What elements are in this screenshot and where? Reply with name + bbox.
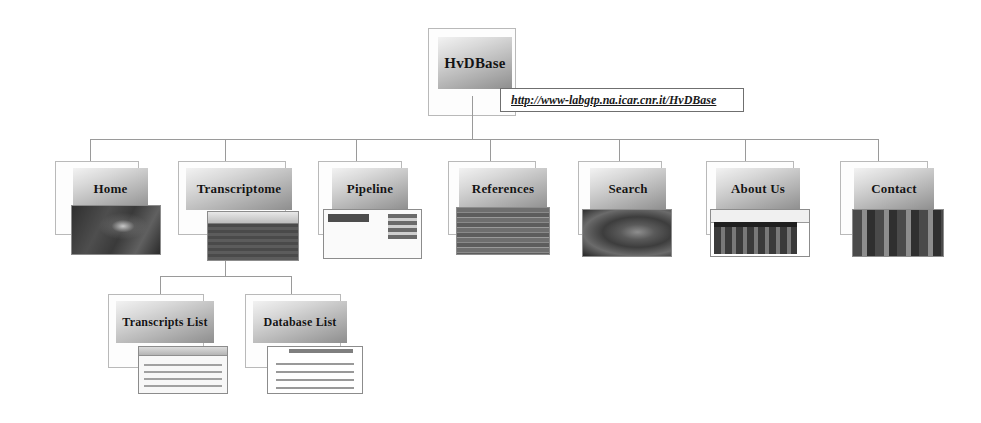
connector-drop-pipeline (356, 139, 357, 161)
node-label: Pipeline (347, 181, 393, 197)
people-photo-thumbnail (852, 209, 944, 257)
connector-drop-transcripts-list (160, 276, 161, 294)
node-transcripts-list[interactable]: Transcripts List (108, 294, 228, 394)
node-label-plate: Transcripts List (116, 301, 214, 343)
connector-level1-trunk (90, 139, 879, 140)
root-url-box[interactable]: http://www-labgtp.na.icar.cnr.it/HvDBase (500, 88, 744, 112)
node-contact[interactable]: Contact (840, 161, 950, 257)
connector-drop-search (619, 139, 620, 161)
node-label-plate: Search (590, 168, 666, 210)
node-label: Contact (871, 181, 916, 197)
connector-transcriptome-stem (225, 261, 226, 276)
node-home[interactable]: Home (55, 161, 161, 255)
node-label-plate: About Us (716, 168, 800, 210)
node-label-plate: Database List (253, 301, 347, 343)
node-label-plate: Contact (854, 168, 934, 210)
node-label-plate: Pipeline (332, 168, 408, 210)
node-label-plate: References (459, 168, 547, 210)
node-label-plate: HvDBase (438, 37, 512, 89)
sitemap-diagram: HvDBase http://www-labgtp.na.icar.cnr.it… (0, 0, 981, 423)
node-pipeline[interactable]: Pipeline (318, 161, 422, 259)
transcripts-table-thumbnail (138, 346, 228, 394)
node-label: Transcripts List (122, 315, 207, 330)
node-label: Search (608, 181, 647, 197)
connector-drop-database-list (291, 276, 292, 294)
node-label-plate: Home (73, 168, 148, 210)
node-label: About Us (731, 181, 785, 197)
connector-root-stem (472, 96, 473, 140)
node-search[interactable]: Search (578, 161, 682, 257)
node-label: HvDBase (444, 55, 505, 72)
node-label-plate: Transcriptome (186, 168, 292, 210)
node-transcriptome[interactable]: Transcriptome (178, 161, 304, 261)
reference-table-thumbnail (456, 207, 550, 255)
node-label: Database List (264, 315, 337, 330)
node-references[interactable]: References (448, 161, 558, 255)
node-label: References (472, 181, 534, 197)
connector-drop-transcriptome (225, 139, 226, 161)
root-url-text: http://www-labgtp.na.icar.cnr.it/HvDBase (511, 93, 716, 108)
node-label: Home (93, 181, 127, 197)
database-list-thumbnail (267, 346, 363, 394)
connector-drop-aboutus (745, 139, 746, 161)
node-database-list[interactable]: Database List (245, 294, 363, 394)
browser-window-thumbnail (207, 211, 299, 261)
node-label: Transcriptome (197, 181, 282, 197)
pipeline-form-thumbnail (323, 209, 422, 259)
node-about-us[interactable]: About Us (706, 161, 820, 257)
hand-photo-thumbnail (582, 209, 672, 257)
connector-level2-trunk (160, 276, 291, 277)
connector-drop-contact (878, 139, 879, 161)
connector-drop-home (90, 139, 91, 161)
group-photo-browser-thumbnail (710, 209, 810, 257)
photo-dark-thumbnail (71, 205, 161, 255)
connector-drop-references (490, 139, 491, 161)
